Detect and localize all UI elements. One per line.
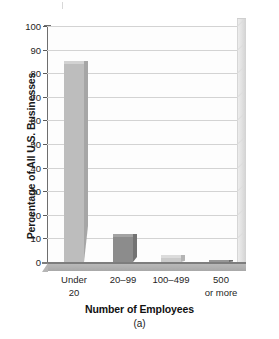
- gridline: [47, 26, 237, 27]
- plot-3d-floor-left-bevel: [42, 263, 48, 272]
- x-axis-tick-label-line2: or more: [186, 287, 256, 300]
- x-axis-tick-label: 500or more: [186, 274, 256, 299]
- bar-front-face: [64, 61, 84, 262]
- x-axis-tick-label-line2: 20: [39, 287, 109, 300]
- plot-area: 1009080706050403020100: [47, 26, 237, 262]
- y-axis-tick-label: 50: [30, 139, 41, 150]
- y-axis-tick-label: 60: [30, 115, 41, 126]
- y-axis-tick-mark: [43, 191, 47, 192]
- bar-front-face: [113, 234, 133, 262]
- scan-artifact: [62, 2, 63, 9]
- bar-top-face: [64, 61, 84, 64]
- y-axis-tick-mark: [43, 215, 47, 216]
- x-axis-tick-label-line1: 100–499: [153, 274, 190, 285]
- y-axis-tick-label: 70: [30, 91, 41, 102]
- x-axis-tick-label-line1: 500: [213, 274, 229, 285]
- bar-top-face: [161, 255, 181, 258]
- y-axis-tick-mark: [43, 50, 47, 51]
- figure-caption: (a): [0, 318, 279, 329]
- y-axis-tick-label: 30: [30, 186, 41, 197]
- bar-chart-figure: Percentage of All U.S. Businesses 100908…: [0, 0, 279, 339]
- x-axis-title: Number of Employees: [0, 303, 279, 315]
- y-axis-tick-label: 100: [25, 21, 41, 32]
- y-axis-tick-mark: [43, 238, 47, 239]
- y-axis-tick-label: 0: [36, 257, 41, 268]
- y-axis-tick-mark: [43, 97, 47, 98]
- y-axis-tick-mark: [43, 168, 47, 169]
- bar: [161, 255, 181, 262]
- y-axis-tick-mark: [43, 144, 47, 145]
- y-axis-tick-label: 10: [30, 233, 41, 244]
- x-axis-line: [42, 262, 246, 264]
- y-axis-tick-label: 90: [30, 44, 41, 55]
- bar: [64, 61, 84, 262]
- y-axis-tick-mark: [43, 73, 47, 74]
- plot-3d-side-wall-top-edge: [237, 18, 246, 19]
- gridline: [47, 50, 237, 51]
- x-axis-tick-label-line1: 20–99: [110, 274, 136, 285]
- bar: [113, 234, 133, 262]
- y-axis-tick-label: 40: [30, 162, 41, 173]
- y-axis-tick-mark: [43, 120, 47, 121]
- y-axis-tick-label: 20: [30, 209, 41, 220]
- x-axis-tick-label-line1: Under: [61, 274, 87, 285]
- y-axis-tick-label: 80: [30, 68, 41, 79]
- bar-top-face: [113, 234, 133, 237]
- y-axis-tick-mark: [43, 26, 47, 27]
